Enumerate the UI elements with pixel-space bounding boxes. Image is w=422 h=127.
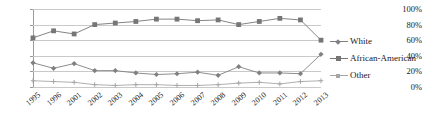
data-point — [133, 82, 138, 87]
chart-legend: WhiteAfrican-AmericanOther — [330, 33, 422, 84]
legend-label: Other — [350, 71, 371, 80]
data-point — [72, 61, 77, 66]
y-axis-tick-label: 100% — [392, 5, 422, 14]
data-point — [236, 64, 241, 69]
data-point — [72, 80, 77, 85]
legend-marker-icon — [330, 71, 348, 81]
series-other — [31, 78, 324, 87]
data-point — [216, 18, 221, 23]
data-point — [319, 78, 324, 83]
series-layer — [33, 9, 321, 87]
legend-item-white[interactable]: White — [330, 33, 422, 50]
data-point — [113, 68, 118, 73]
data-point — [174, 71, 179, 76]
y-axis-tick-label: 0% — [392, 83, 422, 92]
data-point — [277, 81, 282, 86]
line-chart: 100%80%60%40%20%0% 199519962001200220032… — [0, 0, 422, 127]
data-point — [51, 28, 56, 33]
data-point — [154, 17, 159, 22]
data-point — [51, 66, 56, 71]
data-point — [236, 81, 241, 86]
data-point — [298, 18, 303, 23]
data-point — [298, 79, 303, 84]
data-point — [154, 72, 159, 77]
y-axis-tick-label: 80% — [392, 20, 422, 29]
legend-marker-icon — [330, 54, 348, 64]
data-point — [257, 70, 262, 75]
series-line — [33, 18, 321, 40]
legend-item-african-american[interactable]: African-American — [330, 50, 422, 67]
data-point — [277, 70, 282, 75]
data-point — [216, 73, 221, 78]
data-point — [72, 32, 77, 37]
data-point — [113, 21, 118, 26]
data-point — [195, 70, 200, 75]
data-point — [195, 18, 200, 23]
data-point — [236, 22, 241, 27]
data-point — [257, 80, 262, 85]
plot-area — [33, 9, 321, 87]
data-point — [92, 82, 97, 87]
data-point — [133, 70, 138, 75]
data-point — [319, 38, 324, 43]
data-point — [31, 78, 36, 83]
legend-label: African-American — [350, 54, 416, 63]
data-point — [92, 22, 97, 27]
legend-item-other[interactable]: Other — [330, 67, 422, 84]
series-white — [30, 52, 323, 78]
data-point — [257, 19, 262, 24]
data-point — [175, 17, 180, 22]
data-point — [31, 35, 36, 40]
data-point — [216, 82, 221, 87]
series-african-american — [31, 16, 324, 43]
data-point — [154, 82, 159, 87]
data-point — [133, 19, 138, 24]
legend-marker-icon — [330, 37, 348, 47]
data-point — [277, 16, 282, 21]
legend-label: White — [350, 37, 372, 46]
data-point — [92, 68, 97, 73]
data-point — [30, 60, 35, 65]
data-point — [51, 79, 56, 84]
